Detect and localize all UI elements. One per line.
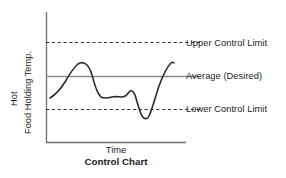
y-axis-label-line1: Hot xyxy=(9,92,19,106)
process-data-curve xyxy=(50,62,174,118)
upper-control-limit-label: Upper Control Limit xyxy=(186,38,267,48)
average-label: Average (Desired) xyxy=(186,71,262,81)
y-axis-label-line2: Food Holding Temp. xyxy=(23,51,33,134)
lower-control-limit-label: Lower Control Limit xyxy=(186,104,267,114)
chart-caption: Control Chart xyxy=(36,156,196,167)
x-axis-label: Time xyxy=(46,145,186,156)
control-chart-figure: Hot Food Holding Temp. Upper Control Lim… xyxy=(0,0,286,178)
